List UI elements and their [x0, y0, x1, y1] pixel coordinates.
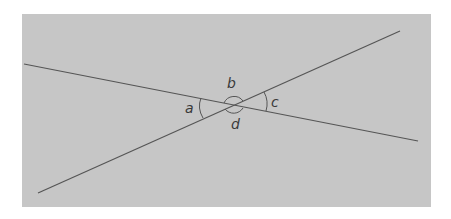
angle-label-c: c — [271, 94, 279, 110]
line-1 — [24, 64, 418, 141]
line-2 — [38, 31, 400, 193]
angle-a-arc — [199, 98, 203, 118]
angle-c-arc — [264, 92, 267, 111]
angle-label-a: a — [185, 100, 194, 116]
angle-d-arc — [225, 108, 243, 113]
angle-label-d: d — [231, 116, 240, 132]
angle-label-b: b — [227, 75, 236, 91]
intersecting-lines-diagram: a b c d — [0, 0, 451, 219]
